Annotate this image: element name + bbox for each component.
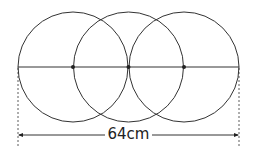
- center-point-middle: [127, 65, 131, 69]
- center-point-left: [71, 65, 75, 69]
- center-point-right: [182, 65, 186, 69]
- dimension-label-container: 64cm: [0, 125, 255, 143]
- dimension-label: 64cm: [105, 125, 153, 143]
